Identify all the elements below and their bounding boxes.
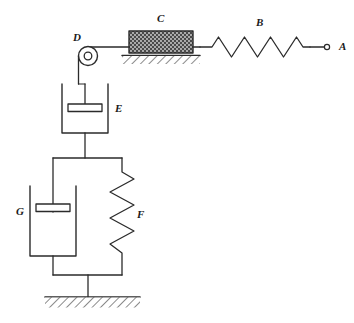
free-end-node-a [324, 44, 329, 49]
dashpot-g-piston-plate [36, 204, 70, 212]
spring-b [200, 37, 310, 57]
lower-ground-hatching [45, 298, 140, 308]
label-g: G [16, 206, 24, 217]
label-c: C [157, 13, 164, 24]
pulley-d-axle [84, 52, 92, 60]
mechanical-system-diagram [0, 0, 354, 323]
block-c [129, 31, 193, 53]
label-d: D [73, 32, 81, 43]
label-e: E [115, 103, 122, 114]
label-b: B [256, 17, 263, 28]
figure-canvas: A B C D E F G [0, 0, 354, 323]
label-a: A [339, 41, 346, 52]
label-f: F [137, 209, 144, 220]
upper-ground-hatching [122, 56, 200, 64]
spring-f [110, 158, 134, 275]
dashpot-e-piston-plate [68, 104, 102, 112]
